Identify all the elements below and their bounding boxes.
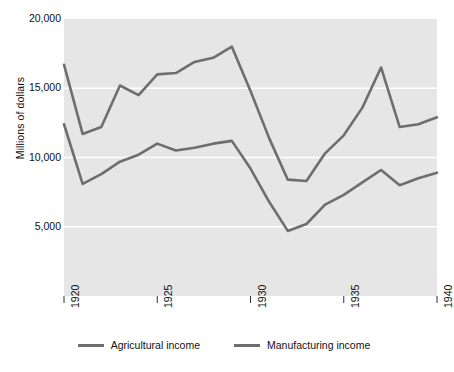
x-axis-tick-label: 1935 <box>349 285 361 308</box>
x-axis-tick-label: 1925 <box>162 285 174 308</box>
x-axis-tick-label: 1920 <box>69 285 81 308</box>
legend-item-agricultural-income[interactable]: Agricultural income <box>78 339 200 351</box>
legend-line-swatch-icon <box>78 344 104 347</box>
legend-label: Manufacturing income <box>267 339 370 351</box>
legend-item-manufacturing-income[interactable]: Manufacturing income <box>234 339 370 351</box>
x-axis-tick-label: 1940 <box>442 285 454 308</box>
x-axis-tick-label: 1930 <box>256 285 268 308</box>
chart-legend: Agricultural incomeManufacturing income <box>0 339 448 351</box>
legend-line-swatch-icon <box>234 344 260 347</box>
legend-label: Agricultural income <box>111 339 200 351</box>
